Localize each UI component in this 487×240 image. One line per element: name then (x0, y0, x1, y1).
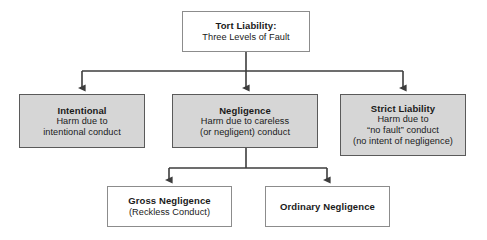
node-strict-liability[interactable]: Strict Liability Harm due to “no fault” … (340, 94, 466, 156)
node-line: “no fault” conduct (367, 125, 439, 136)
node-line: (Reckless Conduct) (129, 207, 210, 218)
node-ordinary-negligence[interactable]: Ordinary Negligence (265, 186, 390, 227)
node-line: Harm due to (56, 116, 107, 127)
node-negligence[interactable]: Negligence Harm due to careless (or negl… (172, 94, 318, 148)
node-title: Tort Liability: (216, 20, 277, 31)
node-line: (or negligent) conduct (200, 127, 290, 138)
node-title: Intentional (57, 105, 106, 116)
node-title: Negligence (219, 105, 271, 116)
node-line: intentional conduct (43, 127, 121, 138)
node-gross-negligence[interactable]: Gross Negligence (Reckless Conduct) (107, 186, 232, 227)
node-line: Harm due to (377, 114, 428, 125)
node-intentional[interactable]: Intentional Harm due to intentional cond… (19, 94, 145, 148)
node-line: Three Levels of Fault (202, 32, 289, 43)
node-tort-liability[interactable]: Tort Liability: Three Levels of Fault (182, 11, 310, 52)
node-title: Ordinary Negligence (280, 201, 375, 212)
node-line: Harm due to careless (201, 116, 289, 127)
node-title: Strict Liability (371, 103, 435, 114)
node-line: (no intent of negligence) (353, 136, 453, 147)
node-title: Gross Negligence (128, 195, 210, 206)
diagram-canvas: Tort Liability: Three Levels of Fault In… (0, 0, 487, 240)
